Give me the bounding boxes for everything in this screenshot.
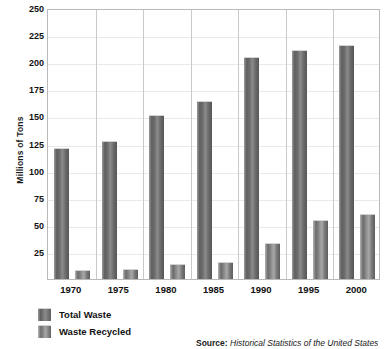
legend-swatch-icon-total xyxy=(38,308,51,321)
bar-waste-recycled-2000[interactable] xyxy=(360,214,375,279)
plot-area xyxy=(47,9,380,280)
bar-group-2000 xyxy=(333,10,381,279)
bars-layer xyxy=(48,10,379,279)
y-tick-250: 250 xyxy=(16,5,44,14)
y-tick-50: 50 xyxy=(16,221,44,230)
bar-group-1975 xyxy=(96,10,144,279)
source-text: Historical Statistics of the United Stat… xyxy=(230,338,378,348)
bar-total-waste-1980[interactable] xyxy=(149,115,164,279)
y-axis-tick-labels: 255075100125150175200225250 xyxy=(16,0,44,290)
y-tick-200: 200 xyxy=(16,59,44,68)
legend-item-total-waste[interactable]: Total Waste xyxy=(38,306,131,323)
y-tick-75: 75 xyxy=(16,194,44,203)
bar-waste-recycled-1985[interactable] xyxy=(218,262,233,279)
legend-label: Waste Recycled xyxy=(59,326,131,337)
legend: Total WasteWaste Recycled xyxy=(38,306,131,340)
bar-group-1980 xyxy=(143,10,191,279)
y-tick-150: 150 xyxy=(16,113,44,122)
y-tick-225: 225 xyxy=(16,32,44,41)
x-tick-1985: 1985 xyxy=(190,284,238,295)
bar-total-waste-1975[interactable] xyxy=(102,141,117,279)
bar-waste-recycled-1970[interactable] xyxy=(75,270,90,279)
legend-swatch-icon-recycled xyxy=(38,325,51,338)
x-tick-1975: 1975 xyxy=(94,284,142,295)
y-tick-125: 125 xyxy=(16,140,44,149)
y-tick-100: 100 xyxy=(16,167,44,176)
source-note: Source: Historical Statistics of the Uni… xyxy=(196,338,378,348)
bar-waste-recycled-1980[interactable] xyxy=(170,264,185,279)
x-tick-1990: 1990 xyxy=(237,284,285,295)
bar-group-1985 xyxy=(191,10,239,279)
bar-group-1990 xyxy=(238,10,286,279)
bar-total-waste-1995[interactable] xyxy=(292,50,307,279)
y-tick-25: 25 xyxy=(16,248,44,257)
bar-group-1970 xyxy=(48,10,96,279)
x-tick-2000: 2000 xyxy=(332,284,380,295)
x-axis-tick-labels: 1970197519801985199019952000 xyxy=(47,284,380,300)
x-tick-1995: 1995 xyxy=(285,284,333,295)
bar-total-waste-1990[interactable] xyxy=(244,57,259,279)
bar-waste-recycled-1995[interactable] xyxy=(313,220,328,279)
bar-chart: Millions of Tons 25507510012515017520022… xyxy=(0,0,388,349)
y-tick-175: 175 xyxy=(16,86,44,95)
x-tick-1980: 1980 xyxy=(142,284,190,295)
legend-item-waste-recycled[interactable]: Waste Recycled xyxy=(38,323,131,340)
source-prefix: Source: xyxy=(196,338,228,348)
bar-waste-recycled-1990[interactable] xyxy=(265,243,280,279)
legend-label: Total Waste xyxy=(59,309,111,320)
bar-total-waste-1985[interactable] xyxy=(197,101,212,279)
x-tick-1970: 1970 xyxy=(47,284,95,295)
bar-group-1995 xyxy=(286,10,334,279)
bar-total-waste-1970[interactable] xyxy=(54,148,69,279)
bar-waste-recycled-1975[interactable] xyxy=(123,269,138,279)
bar-total-waste-2000[interactable] xyxy=(339,45,354,279)
